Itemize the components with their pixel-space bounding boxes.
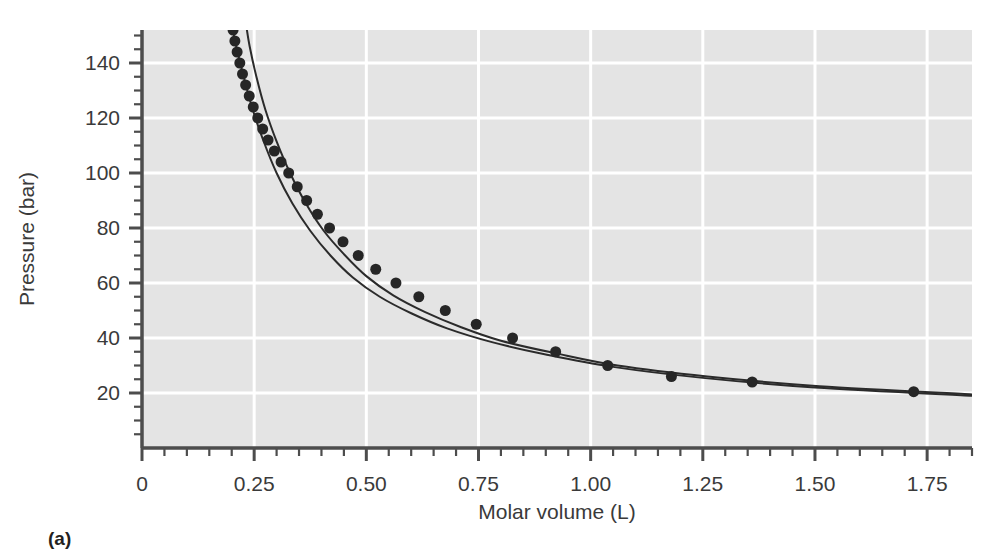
- data-point: [390, 278, 401, 289]
- y-tick-label: 120: [85, 106, 120, 129]
- x-tick-label: 0: [136, 472, 148, 495]
- data-point: [248, 102, 259, 113]
- data-point: [550, 346, 561, 357]
- data-point: [370, 264, 381, 275]
- y-tick-label: 140: [85, 51, 120, 74]
- data-point: [602, 360, 613, 371]
- y-tick-label: 60: [97, 271, 120, 294]
- x-tick-label: 0.50: [346, 472, 387, 495]
- y-tick-label: 100: [85, 161, 120, 184]
- data-point: [269, 146, 280, 157]
- data-point: [301, 195, 312, 206]
- data-point: [413, 291, 424, 302]
- figure-panel: 00.250.500.751.001.251.501.75 2040608010…: [0, 0, 1006, 557]
- data-point: [908, 386, 919, 397]
- data-point: [263, 135, 274, 146]
- data-point: [244, 91, 255, 102]
- data-point: [257, 124, 268, 135]
- x-tick-label: 1.00: [570, 472, 611, 495]
- x-tick-label: 1.25: [682, 472, 723, 495]
- x-tick-label: 0.75: [458, 472, 499, 495]
- data-point: [283, 168, 294, 179]
- data-point: [229, 36, 240, 47]
- data-point: [234, 58, 245, 69]
- data-point: [666, 371, 677, 382]
- data-point: [252, 113, 263, 124]
- y-axis-title: Pressure (bar): [15, 172, 38, 306]
- data-point: [276, 157, 287, 168]
- x-axis-tick-labels: 00.250.500.751.001.251.501.75: [136, 472, 947, 495]
- data-point: [232, 47, 243, 58]
- data-point: [240, 80, 251, 91]
- data-point: [324, 223, 335, 234]
- data-point: [228, 25, 239, 36]
- data-point: [507, 333, 518, 344]
- data-point: [471, 319, 482, 330]
- x-tick-label: 0.25: [234, 472, 275, 495]
- y-tick-label: 80: [97, 216, 120, 239]
- y-tick-label: 20: [97, 381, 120, 404]
- x-tick-label: 1.50: [795, 472, 836, 495]
- y-axis-tick-labels: 20406080100120140: [85, 51, 120, 404]
- panel-label: (a): [48, 528, 71, 549]
- data-point: [440, 305, 451, 316]
- data-point: [237, 69, 248, 80]
- data-point: [747, 377, 758, 388]
- data-point: [353, 250, 364, 261]
- y-tick-label: 40: [97, 326, 120, 349]
- x-tick-label: 1.75: [907, 472, 948, 495]
- pressure-volume-chart: 00.250.500.751.001.251.501.75 2040608010…: [0, 0, 1006, 557]
- data-point: [337, 236, 348, 247]
- x-axis-title: Molar volume (L): [478, 500, 636, 523]
- data-point: [292, 181, 303, 192]
- plot-area-background: [142, 30, 972, 448]
- data-point: [312, 209, 323, 220]
